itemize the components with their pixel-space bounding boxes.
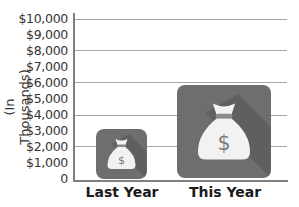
gridline [75, 50, 287, 51]
money-bag-icon: $ [96, 129, 147, 179]
y-tick: $7,000 [18, 60, 68, 74]
y-tick: 0 [18, 172, 68, 186]
y-tick: $4,000 [18, 108, 68, 122]
gridline [75, 82, 287, 83]
y-tick: $3,000 [18, 124, 68, 138]
gridline [75, 19, 287, 20]
y-tick: $1,000 [18, 156, 68, 170]
bar-this-year: $ [177, 85, 271, 178]
dollar-symbol: $ [217, 131, 230, 155]
dollar-symbol: $ [118, 154, 125, 167]
y-tick: $9,000 [18, 28, 68, 42]
money-bag-icon: $ [177, 85, 271, 178]
x-label-this-year: This Year [180, 184, 270, 200]
x-label-last-year: Last Year [82, 184, 162, 200]
bar-last-year: $ [96, 129, 147, 179]
y-axis-line [73, 13, 75, 182]
y-tick: $10,000 [18, 12, 68, 26]
y-tick: $2,000 [18, 140, 68, 154]
y-tick: $5,000 [18, 92, 68, 106]
x-axis-line [73, 180, 288, 182]
y-tick: $6,000 [18, 76, 68, 90]
y-tick: $8,000 [18, 44, 68, 58]
